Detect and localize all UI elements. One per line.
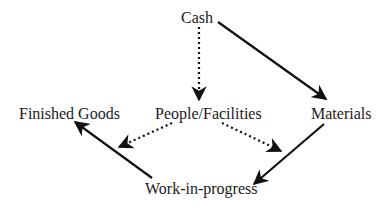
edge-materials-to-wip xyxy=(254,124,324,184)
edge-people-to-wip xyxy=(222,123,281,151)
edge-cash-to-materials xyxy=(218,22,326,99)
node-finished-goods: Finished Goods xyxy=(19,106,120,122)
node-cash: Cash xyxy=(181,10,213,26)
edge-wip-to-finished xyxy=(75,122,152,178)
node-materials: Materials xyxy=(311,106,371,122)
node-people-facilities: People/Facilities xyxy=(155,106,262,122)
edge-people-to-finished xyxy=(119,123,172,147)
diagram-canvas: Cash People/Facilities Finished Goods Ma… xyxy=(0,0,390,209)
node-work-in-progress: Work-in-progress xyxy=(145,181,257,197)
